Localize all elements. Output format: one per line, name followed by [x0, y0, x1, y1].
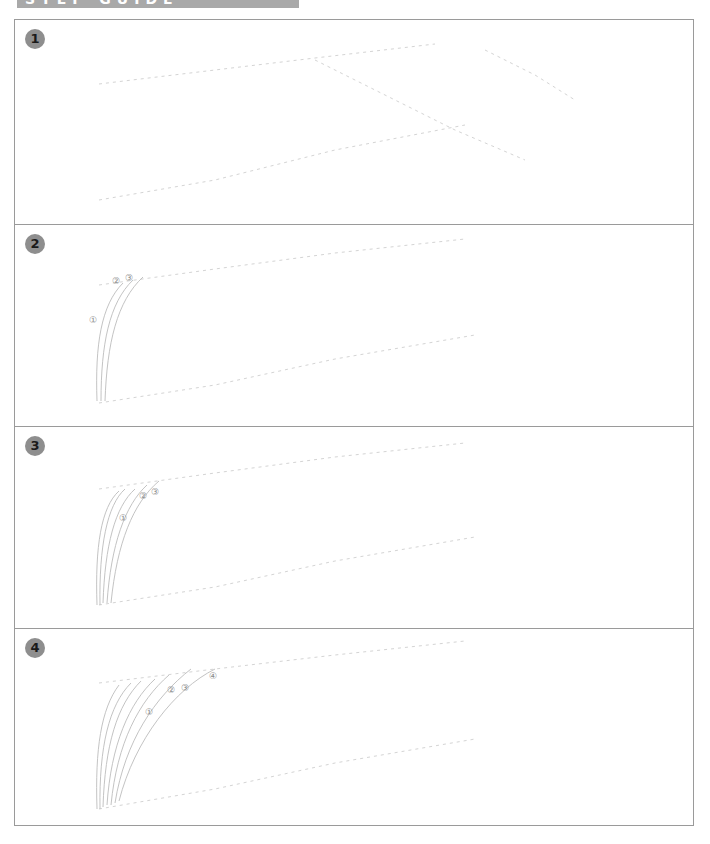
- curve-label: ②: [167, 685, 175, 695]
- step-panel-1: 1: [15, 20, 693, 224]
- curve-label: ①: [119, 513, 127, 523]
- header-bar: STEP GUIDE: [17, 0, 299, 8]
- curve-label: ④: [209, 671, 217, 681]
- curve-label: ③: [125, 273, 133, 283]
- curve-label: ②: [139, 491, 147, 501]
- guide-sketch: [15, 20, 695, 224]
- curve-label: ②: [112, 276, 120, 286]
- step-panel-3: 3 ① ② ③: [15, 426, 693, 628]
- header-title: STEP GUIDE: [25, 0, 179, 7]
- curve-label: ①: [145, 707, 153, 717]
- curve-label: ①: [89, 315, 97, 325]
- curve-sketch: ① ② ③: [15, 427, 695, 629]
- curve-sketch: ① ② ③: [15, 225, 695, 427]
- step-panel-4: 4 ① ② ③ ④: [15, 628, 693, 827]
- step-panel-2: 2 ① ② ③: [15, 224, 693, 426]
- steps-frame: 1 2 ① ② ③ 3: [14, 19, 694, 826]
- curve-label: ③: [181, 683, 189, 693]
- curve-label: ③: [151, 487, 159, 497]
- curve-sketch: ① ② ③ ④: [15, 629, 695, 828]
